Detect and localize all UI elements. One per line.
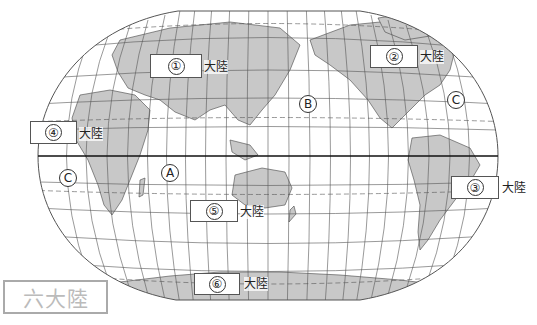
continent-5-answer-box[interactable]: ⑤ xyxy=(190,200,238,222)
continent-6-suffix: 大陸 xyxy=(244,277,268,291)
continent-3-number: ③ xyxy=(467,179,484,196)
world-map xyxy=(0,0,537,325)
continent-3-suffix: 大陸 xyxy=(502,181,526,195)
continent-6-answer-box[interactable]: ⑥ xyxy=(194,273,240,295)
continent-3-answer-box[interactable]: ③ xyxy=(451,176,499,199)
continent-2-answer-box[interactable]: ② xyxy=(370,45,418,68)
continent-5-suffix: 大陸 xyxy=(240,205,264,219)
continent-1-suffix: 大陸 xyxy=(204,60,228,74)
continent-4-number: ④ xyxy=(45,124,62,141)
ocean-label-a: A xyxy=(161,164,179,182)
continent-1-answer-box[interactable]: ① xyxy=(150,54,202,78)
ocean-label-b: B xyxy=(299,95,317,113)
continent-1-number: ① xyxy=(168,58,185,75)
continent-2-suffix: 大陸 xyxy=(420,50,444,64)
ocean-label-c-west: C xyxy=(59,169,77,187)
page-title: 六大陸 xyxy=(3,280,108,314)
continent-5-number: ⑤ xyxy=(206,203,223,220)
continent-2-number: ② xyxy=(386,48,403,65)
continent-4-suffix: 大陸 xyxy=(79,127,103,141)
continent-4-answer-box[interactable]: ④ xyxy=(30,121,77,144)
ocean-label-c-east: C xyxy=(447,91,465,109)
continent-6-number: ⑥ xyxy=(209,276,226,293)
